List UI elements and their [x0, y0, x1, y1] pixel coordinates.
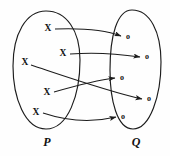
set-q-element-5: o: [121, 112, 125, 121]
mapping-arrow-5: [43, 113, 116, 120]
set-outline-q: [110, 10, 161, 129]
set-q-element-1: o: [126, 32, 130, 41]
set-p-element-2: X: [60, 48, 67, 58]
mapping-diagram-svg: X X X X X o o o o o P Q: [0, 0, 170, 156]
set-p-element-1: X: [45, 23, 52, 33]
set-q-element-2: o: [145, 52, 149, 61]
set-p-element-3: X: [22, 57, 29, 67]
mapping-arrow-4: [54, 78, 115, 92]
set-label-p: P: [43, 135, 51, 149]
set-p-element-5: X: [33, 107, 40, 117]
set-p-element-4: X: [44, 87, 51, 97]
set-q-element-3: o: [120, 73, 124, 82]
mapping-diagram-canvas: X X X X X o o o o o P Q: [0, 0, 170, 156]
set-q-element-4: o: [147, 94, 151, 103]
set-label-q: Q: [132, 135, 141, 149]
mapping-arrow-1: [55, 29, 121, 36]
